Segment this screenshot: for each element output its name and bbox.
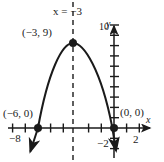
x-tick-label-2: 2 — [133, 134, 139, 145]
left-x-intercept-label: (−6, 0) — [3, 108, 33, 119]
x-axis-label: x — [146, 115, 150, 125]
origin-intercept-label: (0, 0) — [120, 107, 144, 118]
parabola-left-branch — [38, 43, 73, 128]
root-left-point-marker — [34, 124, 42, 132]
parabola-right-branch — [73, 43, 112, 126]
vertex-coordinate-label: (−3, 9) — [22, 27, 52, 38]
y-tick-label-neg2: −2 — [97, 138, 109, 149]
graph-canvas — [0, 0, 164, 162]
x-tick-label-neg8: −8 — [9, 133, 21, 144]
root-origin-point-marker — [110, 124, 118, 132]
axis-of-symmetry-equation-label: x = −3 — [53, 6, 82, 17]
vertex-point-marker — [69, 39, 77, 47]
parabola-figure: x = −3 (−3, 9) (−6, 0) (0, 0) y x 10 −8 … — [0, 0, 164, 162]
y-tick-label-10: 10 — [99, 22, 109, 32]
x-axis — [8, 124, 150, 133]
